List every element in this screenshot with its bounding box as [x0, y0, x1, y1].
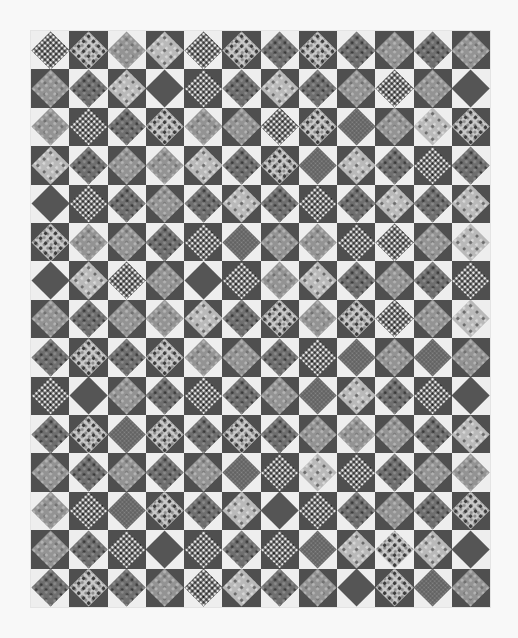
- quilt-block: [184, 223, 222, 261]
- diamond-patch: [261, 492, 299, 530]
- diamond-patch: [31, 492, 69, 530]
- quilt-block: [31, 338, 69, 376]
- quilt-block: [414, 492, 452, 530]
- quilt-block: [184, 300, 222, 338]
- diamond-patch: [108, 569, 146, 607]
- quilt-block: [108, 69, 146, 107]
- diamond-patch: [69, 453, 107, 491]
- quilt-block: [108, 185, 146, 223]
- quilt-block: [261, 530, 299, 568]
- quilt-block: [452, 300, 490, 338]
- quilt-block: [222, 261, 260, 299]
- diamond-patch: [146, 415, 184, 453]
- diamond-patch: [146, 69, 184, 107]
- quilt-block: [108, 31, 146, 69]
- quilt-block: [299, 261, 337, 299]
- quilt-block: [452, 223, 490, 261]
- diamond-patch: [299, 453, 337, 491]
- diamond-patch: [146, 300, 184, 338]
- diamond-patch: [414, 492, 452, 530]
- diamond-patch: [146, 108, 184, 146]
- quilt-block: [414, 300, 452, 338]
- quilt-block: [337, 31, 375, 69]
- diamond-patch: [375, 530, 413, 568]
- quilt-block: [222, 300, 260, 338]
- quilt-block: [108, 492, 146, 530]
- diamond-patch: [261, 223, 299, 261]
- quilt-block: [452, 569, 490, 607]
- diamond-patch: [299, 300, 337, 338]
- quilt-block: [337, 453, 375, 491]
- diamond-patch: [414, 453, 452, 491]
- diamond-patch: [69, 108, 107, 146]
- diamond-patch: [452, 69, 490, 107]
- quilt-block: [261, 31, 299, 69]
- quilt-block: [375, 261, 413, 299]
- quilt-block: [146, 415, 184, 453]
- quilt-block: [375, 108, 413, 146]
- quilt-block: [261, 69, 299, 107]
- quilt-block: [222, 146, 260, 184]
- quilt-block: [184, 377, 222, 415]
- diamond-patch: [261, 261, 299, 299]
- quilt-block: [299, 492, 337, 530]
- quilt-block: [414, 69, 452, 107]
- diamond-patch: [375, 261, 413, 299]
- diamond-patch: [31, 31, 69, 69]
- diamond-patch: [222, 492, 260, 530]
- quilt-block: [261, 300, 299, 338]
- diamond-patch: [184, 69, 222, 107]
- quilt-block: [337, 530, 375, 568]
- quilt-block: [69, 415, 107, 453]
- quilt-block: [299, 69, 337, 107]
- diamond-patch: [299, 261, 337, 299]
- quilt-block: [299, 338, 337, 376]
- diamond-patch: [31, 338, 69, 376]
- diamond-patch: [146, 492, 184, 530]
- quilt-block: [31, 261, 69, 299]
- diamond-patch: [146, 377, 184, 415]
- diamond-patch: [184, 377, 222, 415]
- diamond-patch: [414, 31, 452, 69]
- quilt-block: [337, 108, 375, 146]
- diamond-patch: [414, 146, 452, 184]
- diamond-patch: [184, 453, 222, 491]
- diamond-patch: [69, 338, 107, 376]
- diamond-patch: [222, 377, 260, 415]
- diamond-patch: [69, 530, 107, 568]
- quilt-block: [337, 69, 375, 107]
- quilt-block: [375, 453, 413, 491]
- diamond-patch: [299, 569, 337, 607]
- quilt-block: [108, 108, 146, 146]
- quilt-block: [222, 108, 260, 146]
- quilt-block: [261, 415, 299, 453]
- diamond-patch: [375, 69, 413, 107]
- quilt-block: [261, 492, 299, 530]
- diamond-patch: [108, 415, 146, 453]
- quilt-block: [184, 492, 222, 530]
- diamond-patch: [184, 300, 222, 338]
- quilt-block: [108, 338, 146, 376]
- diamond-patch: [146, 530, 184, 568]
- diamond-patch: [452, 569, 490, 607]
- diamond-patch: [222, 453, 260, 491]
- quilt-block: [31, 108, 69, 146]
- diamond-patch: [108, 223, 146, 261]
- diamond-patch: [375, 185, 413, 223]
- quilt-block: [31, 223, 69, 261]
- diamond-patch: [108, 377, 146, 415]
- quilt-block: [146, 492, 184, 530]
- diamond-patch: [337, 185, 375, 223]
- quilt-block: [146, 223, 184, 261]
- quilt-block: [299, 453, 337, 491]
- quilt-block: [375, 300, 413, 338]
- quilt-block: [222, 31, 260, 69]
- quilt-block: [146, 261, 184, 299]
- diamond-patch: [222, 108, 260, 146]
- diamond-patch: [299, 108, 337, 146]
- diamond-patch: [414, 415, 452, 453]
- quilt-block: [414, 338, 452, 376]
- diamond-patch: [108, 530, 146, 568]
- quilt-block: [375, 146, 413, 184]
- quilt-block: [69, 146, 107, 184]
